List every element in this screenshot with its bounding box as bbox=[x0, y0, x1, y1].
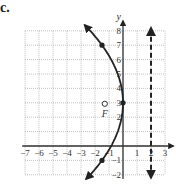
y-tick-label: 6 bbox=[117, 55, 122, 65]
parabola-chart: y −7−6−5−4−3−2−1123−2−12345678 F bbox=[0, 0, 178, 187]
x-tick-label: −5 bbox=[48, 148, 58, 158]
x-tick-label: −3 bbox=[76, 148, 86, 158]
x-tick-label: 1 bbox=[135, 148, 140, 158]
y-tick-label: −2 bbox=[111, 170, 121, 180]
y-tick-label: −1 bbox=[111, 155, 121, 165]
x-tick-label: −7 bbox=[20, 148, 30, 158]
marked-point bbox=[99, 43, 104, 48]
focus-point bbox=[102, 101, 107, 106]
marked-point bbox=[120, 100, 125, 105]
y-axis-label: y bbox=[116, 11, 122, 22]
y-tick-label: 8 bbox=[117, 26, 122, 36]
marked-point bbox=[99, 158, 104, 163]
x-tick-label: −4 bbox=[62, 148, 72, 158]
focus-label: F bbox=[101, 108, 109, 119]
x-tick-label: −2 bbox=[90, 148, 100, 158]
y-tick-label: 7 bbox=[117, 40, 122, 50]
x-tick-label: −6 bbox=[34, 148, 44, 158]
x-tick-label: 3 bbox=[163, 148, 168, 158]
